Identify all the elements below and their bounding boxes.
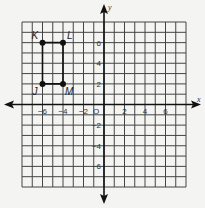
point-label-k: K [32, 30, 40, 41]
point-j [40, 81, 46, 87]
y-tick-label: 2 [97, 80, 102, 89]
point-k [40, 40, 46, 46]
y-tick-label: −6 [92, 162, 102, 171]
y-axis-label: y [107, 3, 112, 12]
x-tick-label: −2 [79, 107, 89, 116]
x-tick-label: 4 [143, 107, 148, 116]
point-label-j: J [32, 86, 39, 97]
origin-label: O [93, 107, 99, 116]
y-tick-label: −2 [92, 121, 102, 130]
coordinate-plane: xyO−6−4−2246642−2−4−6KLMJ [0, 0, 205, 208]
point-l [60, 40, 66, 46]
x-tick-label: 2 [122, 107, 127, 116]
x-tick-label: −6 [38, 107, 48, 116]
y-tick-label: 6 [97, 39, 102, 48]
x-tick-label: −4 [58, 107, 68, 116]
x-axis-label: x [196, 95, 201, 104]
y-tick-label: −4 [92, 142, 102, 151]
point-label-l: L [67, 30, 73, 41]
y-tick-label: 4 [97, 59, 102, 68]
point-label-m: M [65, 86, 74, 97]
x-tick-label: 6 [163, 107, 168, 116]
